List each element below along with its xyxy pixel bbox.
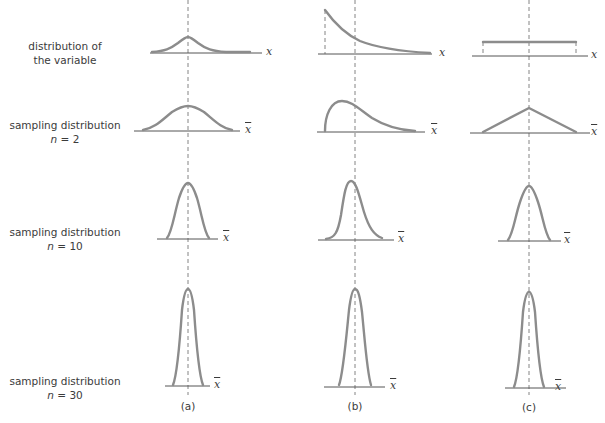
column-label-b: (b) xyxy=(340,400,370,412)
axis-label-xbar-row4-c: x xyxy=(555,380,561,393)
curve-row3-b xyxy=(326,181,382,239)
axis-label-x-a: x xyxy=(266,45,272,58)
sample-size: n = 30 xyxy=(0,388,135,402)
axis-label-xbar-row3-c: x xyxy=(564,233,570,246)
sample-size: n = 10 xyxy=(0,239,135,253)
row-label-line1: sampling distribution xyxy=(0,225,135,239)
n-value: = 2 xyxy=(57,133,79,145)
axis-label-xbar-row2-a: x xyxy=(245,123,251,136)
row-label-line1: sampling distribution xyxy=(0,118,135,132)
row-label-n10: sampling distribution n = 10 xyxy=(0,225,135,253)
axis-label-xbar-row4-a: x xyxy=(214,378,220,391)
sampling-distribution-figure: distribution of the variable sampling di… xyxy=(0,0,605,423)
row-label-line1: sampling distribution xyxy=(0,374,135,388)
column-label-c: (c) xyxy=(514,401,544,413)
axis-label-x-c: x xyxy=(591,48,597,61)
n-symbol: n xyxy=(47,240,54,252)
axis-label-xbar-row3-a: x xyxy=(223,231,229,244)
row-label-line1: distribution of xyxy=(0,39,135,53)
curve-row1-b xyxy=(325,10,430,53)
n-symbol: n xyxy=(47,389,54,401)
curve-row2-c xyxy=(483,108,576,132)
curve-row2-b xyxy=(325,101,415,131)
n-value: = 30 xyxy=(54,389,83,401)
row-label-variable: distribution of the variable xyxy=(0,39,135,67)
axis-label-xbar-row4-b: x xyxy=(390,379,396,392)
row-label-n2: sampling distribution n = 2 xyxy=(0,118,135,146)
row-label-line2: the variable xyxy=(0,53,135,67)
row-label-n30: sampling distribution n = 30 xyxy=(0,374,135,402)
axis-label-xbar-row3-b: x xyxy=(398,232,404,245)
n-value: = 10 xyxy=(54,240,83,252)
column-label-a: (a) xyxy=(173,400,203,412)
curve-row1-a xyxy=(152,37,250,52)
axis-label-xbar-row2-b: x xyxy=(431,124,437,137)
axis-label-xbar-row2-c: x xyxy=(591,125,597,138)
curve-row2-a xyxy=(143,106,232,130)
axis-label-x-b: x xyxy=(439,46,445,59)
sample-size: n = 2 xyxy=(0,132,135,146)
